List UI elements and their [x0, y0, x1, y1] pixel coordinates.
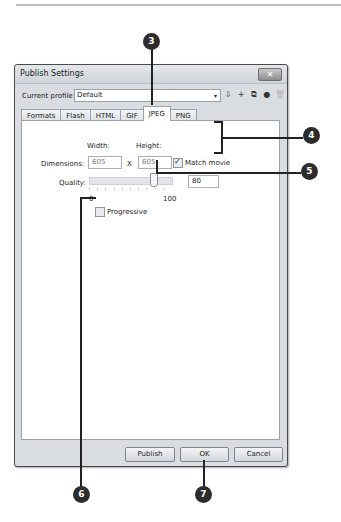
format-tabs: Formats Flash HTML GIF JPEG PNG	[21, 108, 196, 120]
slider-ticks	[89, 188, 171, 190]
dimensions-label: Dimensions:	[41, 160, 84, 168]
callout-6: 6	[73, 486, 90, 503]
delete-profile-icon[interactable]: 🗑	[275, 89, 285, 100]
dimension-separator: X	[127, 160, 132, 168]
callout-5-stem	[156, 160, 158, 172]
callout-3: 3	[143, 33, 160, 50]
callout-5: 5	[301, 163, 318, 180]
callout-4: 4	[303, 127, 320, 144]
publish-button[interactable]: Publish	[125, 447, 175, 462]
current-profile-value: Default	[77, 91, 103, 99]
profile-toolbar: ⇩ + ⧉ ● 🗑	[223, 89, 285, 101]
match-movie-label: Match movie	[185, 159, 230, 167]
match-movie-checkbox[interactable]: ✓	[173, 158, 183, 168]
quality-input[interactable]: 80	[188, 175, 219, 188]
dialog-title: Publish Settings	[20, 69, 84, 78]
duplicate-profile-icon[interactable]: ⧉	[249, 89, 259, 100]
tab-jpeg[interactable]: JPEG	[143, 106, 171, 121]
width-input[interactable]: 605	[88, 156, 122, 169]
cancel-button[interactable]: Cancel	[234, 447, 283, 462]
callout-6-hook	[80, 197, 96, 199]
progressive-checkbox[interactable]	[95, 207, 105, 217]
publish-settings-dialog: Publish Settings ✕ Current profile: Defa…	[14, 64, 288, 467]
height-label: Height:	[136, 142, 162, 150]
checkmark-icon: ✓	[174, 157, 181, 166]
callout-4-bracket-bottom	[214, 152, 223, 154]
callout-7: 7	[195, 486, 212, 503]
callout-5-line	[156, 172, 301, 174]
width-label: Width:	[87, 142, 110, 150]
callout-4-line	[223, 137, 303, 139]
add-profile-icon[interactable]: +	[236, 89, 246, 100]
import-export-profile-icon[interactable]: ⇩	[223, 89, 233, 100]
chevron-down-icon: ▾	[214, 90, 217, 101]
current-profile-label: Current profile:	[22, 92, 75, 100]
close-icon: ✕	[267, 70, 274, 79]
callout-6-line	[80, 197, 82, 487]
height-input[interactable]: 605	[138, 156, 172, 169]
callout-7-line	[203, 460, 205, 488]
profile-options-icon[interactable]: ●	[262, 89, 272, 100]
callout-4-bracket	[221, 121, 223, 154]
callout-3-line	[151, 49, 153, 105]
progressive-label: Progressive	[107, 208, 147, 216]
current-profile-select[interactable]: Default ▾	[74, 89, 221, 102]
quality-slider-thumb[interactable]	[150, 173, 158, 187]
callout-4-bracket-top	[214, 121, 223, 123]
page-rule	[16, 4, 341, 6]
close-button[interactable]: ✕	[258, 68, 282, 81]
quality-slider-track[interactable]	[89, 177, 173, 185]
quality-label: Quality:	[59, 179, 86, 187]
slider-max-label: 100	[163, 195, 176, 203]
